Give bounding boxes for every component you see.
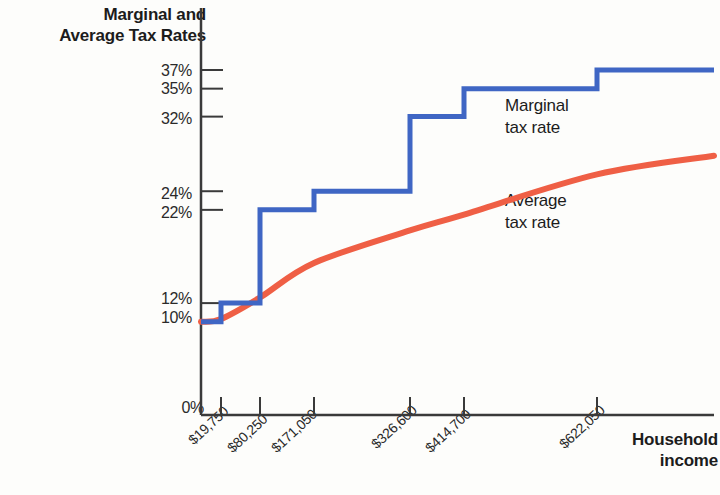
chart-page: Marginal and Average Tax Rates Household…	[0, 0, 720, 495]
chart-plot-area	[0, 0, 720, 495]
x-axis-ticks	[221, 397, 597, 415]
y-axis-ticks	[201, 70, 223, 415]
average-tax-rate-line	[201, 156, 714, 322]
